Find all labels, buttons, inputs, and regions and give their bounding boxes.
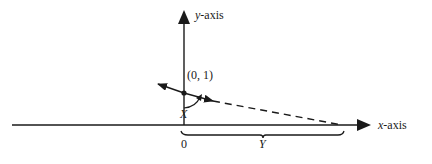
y-axis-label: y-axis	[194, 8, 224, 22]
point-marker	[181, 90, 186, 95]
x-axis	[12, 119, 371, 131]
angle-label: X	[179, 107, 188, 121]
x-axis-label: x-axis	[377, 118, 407, 132]
diagram-canvas: y-axis x-axis (0, 1) X 0 Y	[0, 0, 432, 164]
x-axis-arrow-icon	[357, 119, 371, 131]
dashed-line	[213, 101, 342, 125]
origin-label: 0	[181, 137, 187, 151]
y-axis-arrow-icon	[178, 10, 190, 24]
point-label: (0, 1)	[187, 68, 213, 82]
distance-label: Y	[259, 137, 267, 151]
